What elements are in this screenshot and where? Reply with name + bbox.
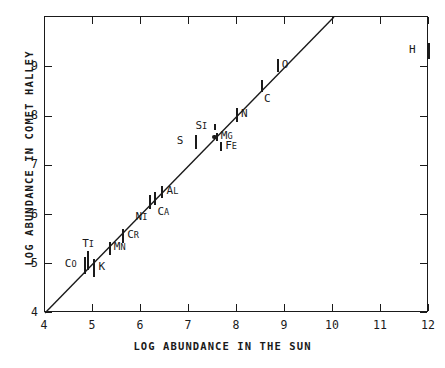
error-bar xyxy=(149,195,151,209)
x-tick-mark xyxy=(332,17,333,24)
error-bar xyxy=(195,135,197,149)
x-tick-mark xyxy=(140,304,141,311)
x-tick-mark xyxy=(188,17,189,24)
x-tick-mark xyxy=(92,17,93,24)
point-label-c: C xyxy=(264,92,271,105)
error-bar xyxy=(428,43,430,60)
point-label-cr: CR xyxy=(127,228,139,241)
point-label-n: N xyxy=(241,107,248,120)
x-tick-mark xyxy=(284,17,285,24)
error-bar xyxy=(87,251,89,270)
error-bar xyxy=(93,259,95,277)
y-tick-mark xyxy=(420,165,427,166)
y-tick-mark xyxy=(420,66,427,67)
point-label-fe: FE xyxy=(225,139,237,152)
point-label-si: SI xyxy=(195,119,207,132)
y-tick-label: 4 xyxy=(22,305,38,319)
y-tick-mark xyxy=(45,214,52,215)
error-bar xyxy=(122,229,124,242)
x-tick-mark xyxy=(428,304,429,311)
y-tick-mark xyxy=(45,66,52,67)
error-bar xyxy=(261,80,263,92)
x-tick-label: 4 xyxy=(32,318,56,332)
x-tick-mark xyxy=(236,304,237,311)
x-tick-label: 10 xyxy=(320,318,344,332)
x-tick-mark xyxy=(44,304,45,311)
y-tick-mark xyxy=(45,263,52,264)
x-tick-mark xyxy=(428,17,429,24)
x-tick-label: 8 xyxy=(224,318,248,332)
y-tick-mark xyxy=(45,312,52,313)
point-label-al: AL xyxy=(167,184,179,197)
x-tick-label: 5 xyxy=(80,318,104,332)
x-tick-label: 6 xyxy=(128,318,152,332)
y-tick-mark xyxy=(420,263,427,264)
point-label-h: H xyxy=(409,43,416,56)
error-bar xyxy=(236,108,238,121)
error-bar xyxy=(154,192,156,205)
x-tick-mark xyxy=(380,304,381,311)
y-tick-mark xyxy=(45,116,52,117)
y-tick-mark xyxy=(420,214,427,215)
x-tick-label: 11 xyxy=(368,318,392,332)
x-tick-mark xyxy=(284,304,285,311)
point-label-co: CO xyxy=(65,257,77,270)
error-bar xyxy=(109,242,111,255)
y-tick-mark xyxy=(420,312,427,313)
chart-figure: COTIKMNCRNICAALSSIMGFENCOH 456789101112 … xyxy=(0,0,445,368)
x-tick-mark xyxy=(44,17,45,24)
x-tick-mark xyxy=(92,304,93,311)
x-tick-mark xyxy=(140,17,141,24)
x-tick-mark xyxy=(236,17,237,24)
point-label-ni: NI xyxy=(136,210,148,223)
x-tick-label: 9 xyxy=(272,318,296,332)
y-tick-mark xyxy=(45,165,52,166)
x-tick-mark xyxy=(380,17,381,24)
x-tick-mark xyxy=(188,304,189,311)
error-bar xyxy=(161,186,163,198)
error-bar xyxy=(214,124,216,130)
error-bar xyxy=(220,142,222,151)
point-label-o: O xyxy=(282,58,289,71)
point-label-k: K xyxy=(98,260,105,273)
x-tick-label: 7 xyxy=(176,318,200,332)
filled-marker xyxy=(212,135,217,140)
error-bar xyxy=(277,59,279,72)
point-label-ca: CA xyxy=(157,205,169,218)
y-tick-mark xyxy=(420,116,427,117)
x-tick-label: 12 xyxy=(416,318,440,332)
x-axis-title: LOG ABUNDANCE IN THE SUN xyxy=(0,340,445,352)
error-bar xyxy=(84,257,86,274)
x-tick-mark xyxy=(332,304,333,311)
plot-inner: COTIKMNCRNICAALSSIMGFENCOH xyxy=(45,17,427,311)
point-label-ti: TI xyxy=(82,237,94,250)
y-axis-title: LOG ABUNDANCE IN COMET HALLEY xyxy=(23,33,35,283)
point-label-s: S xyxy=(177,134,184,147)
plot-area: COTIKMNCRNICAALSSIMGFENCOH xyxy=(44,16,428,312)
